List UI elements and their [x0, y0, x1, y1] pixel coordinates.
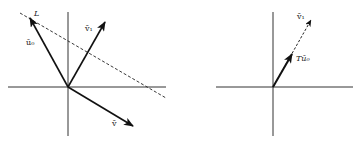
line-L — [20, 13, 166, 98]
label-v: v̄ — [111, 119, 117, 128]
right-panel: v̄₁ Tū₀ — [216, 12, 353, 136]
vector-diagram: L ū₀ v̄₁ v̄ v̄₁ Tū₀ — [0, 0, 362, 143]
label-v1: v̄₁ — [84, 24, 93, 33]
vector-u0 — [30, 18, 68, 87]
label-L: L — [33, 9, 39, 18]
left-panel: L ū₀ v̄₁ v̄ — [8, 9, 166, 136]
label-v1-right: v̄₁ — [296, 12, 305, 21]
label-u0: ū₀ — [26, 38, 34, 47]
label-Tu0: Tū₀ — [296, 54, 310, 63]
vector-Tu0 — [273, 54, 292, 87]
vector-v — [68, 87, 133, 126]
